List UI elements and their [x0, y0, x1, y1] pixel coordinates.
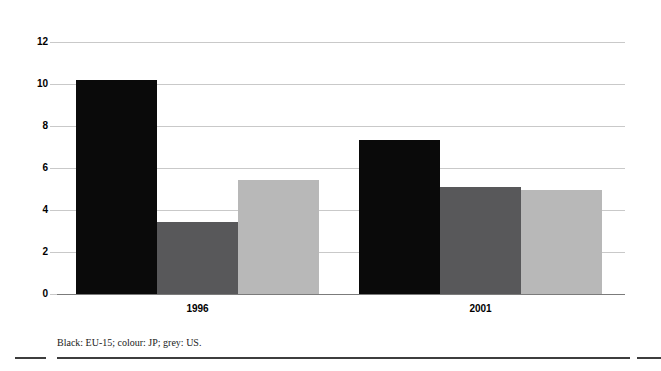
bottom-rule-right [637, 357, 661, 359]
y-axis-tick-label: 2 [42, 247, 48, 257]
y-axis-tick-mark [50, 210, 57, 211]
x-axis-category-label-2001: 2001 [469, 303, 491, 314]
x-axis-category-label-1996: 1996 [186, 303, 208, 314]
bar-jp-1996 [157, 222, 238, 294]
y-axis-tick-mark [50, 168, 57, 169]
gridline [57, 42, 625, 43]
y-axis-tick-label: 8 [42, 121, 48, 131]
x-axis-line [57, 294, 625, 295]
bar-us-2001 [521, 190, 602, 294]
y-axis-tick-label: 6 [42, 163, 48, 173]
plot-area: 024681012 [57, 42, 625, 294]
bar-eu-15-1996 [76, 80, 157, 294]
bottom-rule-left [15, 357, 46, 359]
y-axis-tick-label: 4 [42, 205, 48, 215]
bar-jp-2001 [440, 187, 521, 294]
footnote-text: Black: EU-15; colour: JP; grey: US. [57, 337, 201, 348]
y-axis-tick-mark [50, 84, 57, 85]
y-axis-tick-label: 0 [42, 289, 48, 299]
y-axis-tick-label: 12 [37, 37, 48, 47]
bar-eu-15-2001 [359, 140, 440, 294]
bottom-rule-main [57, 357, 630, 359]
y-axis-tick-mark [50, 252, 57, 253]
bar-us-1996 [238, 180, 319, 294]
y-axis-tick-mark [50, 126, 57, 127]
y-axis-tick-label: 10 [37, 79, 48, 89]
y-axis-tick-mark [50, 294, 57, 295]
y-axis-tick-mark [50, 42, 57, 43]
figure-container: 024681012 19962001 Black: EU-15; colour:… [0, 0, 661, 371]
